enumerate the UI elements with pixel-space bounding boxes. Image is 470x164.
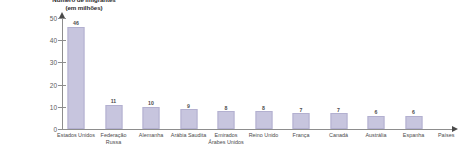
bar-slot: 11 bbox=[97, 18, 131, 129]
bar-value-label: 8 bbox=[262, 105, 265, 111]
bar-slot: 8 bbox=[209, 18, 243, 129]
bar-slot: 10 bbox=[134, 18, 168, 129]
chart-title-block: Número de imigrantes (em milhões) bbox=[24, 0, 144, 12]
immigration-bar-chart: Número de imigrantes (em milhões) 504030… bbox=[0, 0, 470, 164]
x-category-label: França bbox=[281, 132, 321, 139]
bar-value-label: 46 bbox=[73, 20, 79, 26]
plot-area: 50403020100 4611109887766 bbox=[62, 18, 454, 130]
chart-subtitle: (em milhões) bbox=[24, 4, 144, 12]
y-tick-label: 50 bbox=[50, 15, 57, 22]
bar-value-label: 7 bbox=[337, 107, 340, 113]
x-category-label: Alemanha bbox=[131, 132, 171, 139]
y-tick-label: 30 bbox=[50, 59, 57, 66]
bar[interactable]: 6 bbox=[368, 116, 385, 129]
bar-slot: 46 bbox=[59, 18, 93, 129]
bar[interactable]: 8 bbox=[218, 111, 235, 129]
bar-value-label: 9 bbox=[187, 103, 190, 109]
bar-series: 4611109887766 bbox=[62, 18, 454, 130]
bar-value-label: 6 bbox=[412, 109, 415, 115]
bar[interactable]: 6 bbox=[405, 116, 422, 129]
bar[interactable]: 46 bbox=[68, 27, 85, 129]
bar[interactable]: 7 bbox=[293, 113, 310, 129]
bar-slot: 7 bbox=[322, 18, 356, 129]
bar-slot: 9 bbox=[172, 18, 206, 129]
bar-value-label: 10 bbox=[148, 100, 154, 106]
x-category-label: Federação Russa bbox=[94, 132, 134, 145]
y-tick-label: 40 bbox=[50, 37, 57, 44]
bar-value-label: 6 bbox=[375, 109, 378, 115]
x-category-label: Austrália bbox=[356, 132, 396, 139]
x-category-label: Reino Unido bbox=[244, 132, 284, 139]
x-category-label: Estados Unidos bbox=[56, 132, 96, 139]
bar-value-label: 8 bbox=[225, 105, 228, 111]
x-axis-category-labels: Estados UnidosFederação RussaAlemanhaArá… bbox=[62, 132, 454, 162]
bar[interactable]: 7 bbox=[330, 113, 347, 129]
x-category-label: Arábia Saudita bbox=[169, 132, 209, 139]
x-category-label: Espanha bbox=[394, 132, 434, 139]
y-tick-label: 10 bbox=[50, 103, 57, 110]
bar[interactable]: 8 bbox=[255, 111, 272, 129]
bar-slot: 6 bbox=[359, 18, 393, 129]
page-edge bbox=[466, 0, 470, 164]
bar-slot: 8 bbox=[247, 18, 281, 129]
bar-slot: 6 bbox=[397, 18, 431, 129]
bar-value-label: 11 bbox=[111, 98, 116, 104]
bar[interactable]: 10 bbox=[143, 107, 160, 129]
x-category-label: Emirados Árabes Unidos bbox=[206, 132, 246, 145]
bar[interactable]: 11 bbox=[105, 105, 122, 129]
x-axis-title: Países bbox=[438, 132, 454, 138]
x-category-label: Canadá bbox=[319, 132, 359, 139]
bar-slot: 7 bbox=[284, 18, 318, 129]
bar-value-label: 7 bbox=[300, 107, 303, 113]
bar[interactable]: 9 bbox=[180, 109, 197, 129]
y-tick-label: 20 bbox=[50, 81, 57, 88]
